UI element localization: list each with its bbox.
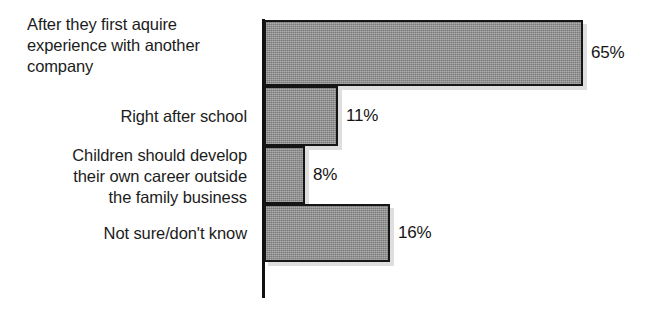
- bar-0: [264, 20, 583, 86]
- bar-value-2: 8%: [313, 165, 337, 185]
- bar-row-3: 16%: [264, 204, 390, 262]
- bar-row-0: 65%: [264, 20, 583, 86]
- bar-row-1: 11%: [264, 86, 338, 146]
- bar-row-2: 8%: [264, 146, 305, 204]
- bar-1: [264, 86, 338, 146]
- bar-value-1: 11%: [346, 106, 378, 126]
- bar-chart: After they first aquire experience with …: [0, 0, 655, 317]
- bar-3: [264, 204, 390, 262]
- bar-value-0: 65%: [591, 43, 624, 63]
- plot-area: 65% 11% 8% 16%: [0, 0, 655, 317]
- bar-2: [264, 146, 305, 204]
- bar-value-3: 16%: [398, 223, 431, 243]
